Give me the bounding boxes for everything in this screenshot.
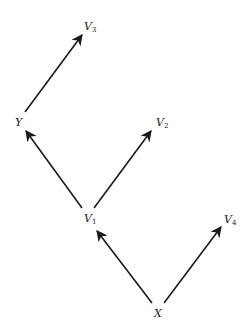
node-label-text: X [154, 307, 162, 320]
node-v1: V1 [84, 213, 96, 226]
node-label-text: V [84, 20, 92, 33]
node-subscript: 1 [92, 218, 96, 226]
node-v3: V3 [84, 21, 96, 34]
node-subscript: 3 [92, 26, 96, 34]
arrow-x-to-v1 [97, 231, 152, 303]
node-label-text: Y [15, 116, 22, 129]
node-v2: V2 [156, 117, 168, 130]
arrow-v1-to-y [26, 131, 82, 208]
arrow-x-to-v4 [164, 227, 221, 303]
node-subscript: 4 [232, 219, 236, 227]
edges-group [25, 35, 221, 303]
arrow-y-to-v3 [25, 35, 82, 112]
node-v4: V4 [224, 214, 236, 227]
node-x: X [154, 308, 162, 319]
node-label-text: V [84, 212, 92, 225]
node-subscript: 2 [164, 122, 168, 130]
node-label-text: V [224, 213, 232, 226]
arrow-v1-to-v2 [94, 131, 151, 208]
node-y: Y [15, 117, 22, 128]
node-label-text: V [156, 116, 164, 129]
causal-diagram [0, 0, 250, 336]
